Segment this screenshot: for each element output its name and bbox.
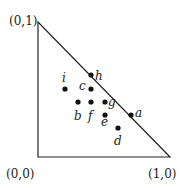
point-label-d: d	[114, 134, 122, 148]
point-d	[115, 125, 120, 130]
point-a	[128, 112, 133, 117]
point-c	[88, 86, 93, 91]
vertex-labels: (0,1) (0,0) (1,0)	[6, 14, 176, 181]
point-label-h: h	[95, 69, 103, 83]
point-label-a: a	[135, 106, 142, 120]
simplex-diagram: (0,1) (0,0) (1,0) hicbfgead	[0, 0, 182, 188]
vertex-label-origin: (0,0)	[6, 167, 34, 181]
point-label-g: g	[108, 95, 116, 109]
point-label-c: c	[79, 79, 86, 93]
point-label-b: b	[74, 109, 82, 123]
point-label-f: f	[87, 109, 95, 123]
vertex-label-top: (0,1)	[9, 14, 37, 28]
point-f	[88, 99, 93, 104]
point-b	[75, 99, 80, 104]
point-label-e: e	[101, 115, 108, 129]
vertex-label-right: (1,0)	[148, 167, 176, 181]
point-h	[88, 72, 93, 77]
point-label-i: i	[62, 71, 66, 85]
triangle	[38, 22, 170, 157]
points: hicbfgead	[62, 69, 142, 148]
point-i	[62, 86, 67, 91]
point-g	[102, 99, 107, 104]
